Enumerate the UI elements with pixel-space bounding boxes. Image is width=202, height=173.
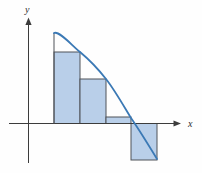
riemann-rect-1: [54, 52, 80, 124]
y-axis-arrow-icon: [25, 18, 31, 26]
riemann-rectangles: [54, 52, 157, 160]
x-axis-label: x: [187, 118, 193, 129]
y-axis-label: y: [24, 4, 30, 15]
x-axis-arrow-icon: [174, 120, 182, 126]
figure-canvas: y x: [0, 0, 202, 173]
riemann-rect-2: [80, 79, 106, 124]
riemann-rect-3: [106, 117, 131, 124]
riemann-rect-4-negative: [131, 124, 157, 161]
riemann-sum-figure: y x: [0, 0, 202, 173]
